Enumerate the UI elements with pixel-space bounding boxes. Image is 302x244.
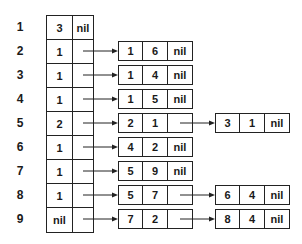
node-value-cell: 7 [143, 186, 167, 204]
list-node: 59nil [118, 161, 193, 181]
head-count-cell: nil [47, 208, 73, 232]
list-node: 16nil [118, 41, 193, 61]
head-pointer-cell [73, 64, 93, 87]
row-index-label: 2 [14, 39, 26, 63]
head-pointer-cell [73, 160, 93, 183]
node-next-pointer-cell: nil [265, 186, 289, 204]
list-node: 15nil [118, 89, 193, 109]
node-next-pointer-cell: nil [168, 42, 192, 60]
node-value-cell: 1 [119, 90, 143, 108]
head-count-cell: 1 [47, 184, 73, 207]
head-table: 3nil1112111nil [46, 15, 94, 233]
node-value-cell: 4 [119, 138, 143, 156]
node-next-pointer-cell: nil [168, 90, 192, 108]
head-row: 3nil [47, 16, 93, 40]
node-next-pointer-cell: nil [168, 66, 192, 84]
node-value-cell: 1 [143, 114, 167, 132]
node-value-cell: 6 [143, 42, 167, 60]
row-index-label: 6 [14, 135, 26, 159]
head-row: 1 [47, 64, 93, 88]
node-value-cell: 8 [216, 210, 240, 228]
list-node: 42nil [118, 137, 193, 157]
node-next-pointer-cell: nil [168, 162, 192, 180]
head-count-cell: 1 [47, 64, 73, 87]
list-node: 21 [118, 113, 193, 133]
head-pointer-cell [73, 112, 93, 135]
list-node: 31nil [215, 113, 290, 133]
head-pointer-cell [73, 208, 93, 232]
head-pointer-cell [73, 88, 93, 111]
node-value-cell: 6 [216, 186, 240, 204]
list-node: 57 [118, 185, 193, 205]
node-next-pointer-cell [168, 114, 192, 132]
head-pointer-cell [73, 40, 93, 63]
head-row: 1 [47, 184, 93, 208]
head-count-cell: 1 [47, 160, 73, 183]
node-value-cell: 5 [143, 90, 167, 108]
row-index-label: 1 [14, 15, 26, 39]
node-next-pointer-cell [168, 186, 192, 204]
head-row: 1 [47, 40, 93, 64]
node-value-cell: 1 [119, 42, 143, 60]
node-value-cell: 5 [119, 162, 143, 180]
head-count-cell: 3 [47, 16, 73, 39]
node-value-cell: 1 [119, 66, 143, 84]
head-row: nil [47, 208, 93, 232]
row-index-label: 7 [14, 159, 26, 183]
node-value-cell: 2 [119, 114, 143, 132]
row-index-label: 4 [14, 87, 26, 111]
head-count-cell: 2 [47, 112, 73, 135]
head-row: 1 [47, 160, 93, 184]
node-value-cell: 4 [143, 66, 167, 84]
node-value-cell: 4 [240, 210, 264, 228]
list-node: 84nil [215, 209, 290, 229]
head-count-cell: 1 [47, 40, 73, 63]
node-next-pointer-cell: nil [265, 114, 289, 132]
head-pointer-cell: nil [73, 16, 93, 39]
list-node: 64nil [215, 185, 290, 205]
row-index-label: 8 [14, 183, 26, 207]
head-row: 1 [47, 136, 93, 160]
head-row: 1 [47, 88, 93, 112]
head-pointer-cell [73, 136, 93, 159]
node-value-cell: 3 [216, 114, 240, 132]
node-next-pointer-cell [168, 210, 192, 228]
list-node: 72 [118, 209, 193, 229]
row-index-label: 9 [14, 207, 26, 231]
node-value-cell: 2 [143, 210, 167, 228]
node-value-cell: 7 [119, 210, 143, 228]
node-value-cell: 9 [143, 162, 167, 180]
head-row: 2 [47, 112, 93, 136]
node-value-cell: 1 [240, 114, 264, 132]
node-next-pointer-cell: nil [168, 138, 192, 156]
head-pointer-cell [73, 184, 93, 207]
node-value-cell: 5 [119, 186, 143, 204]
node-value-cell: 4 [240, 186, 264, 204]
row-index-label: 5 [14, 111, 26, 135]
head-count-cell: 1 [47, 88, 73, 111]
head-count-cell: 1 [47, 136, 73, 159]
node-value-cell: 2 [143, 138, 167, 156]
row-index-label: 3 [14, 63, 26, 87]
node-next-pointer-cell: nil [265, 210, 289, 228]
list-node: 14nil [118, 65, 193, 85]
